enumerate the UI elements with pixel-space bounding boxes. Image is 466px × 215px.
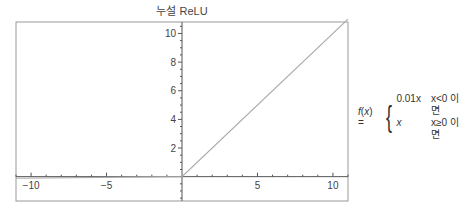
case1-cond: x<0 이면 xyxy=(431,93,466,117)
x-tick-label: 5 xyxy=(255,180,261,191)
brace-icon: { xyxy=(386,102,392,132)
formula-annotation: f(x) = { 0.01x x<0 이면 x x≥0 이면 xyxy=(358,93,466,141)
case2-expr: x xyxy=(396,117,420,141)
formula-lhs: f(x) = xyxy=(358,106,380,128)
x-tick-label: −5 xyxy=(101,180,113,191)
case1-expr: 0.01x xyxy=(396,93,420,117)
y-tick-label: 6 xyxy=(170,85,176,96)
y-tick-label: 10 xyxy=(165,28,177,39)
x-tick-label: −10 xyxy=(23,180,40,191)
x-tick-label: 10 xyxy=(327,180,339,191)
case2-cond: x≥0 이면 xyxy=(431,117,466,141)
y-tick-label: 4 xyxy=(170,114,176,125)
y-tick-label: 2 xyxy=(170,143,176,154)
formula-cases: 0.01x x<0 이면 x x≥0 이면 xyxy=(396,93,466,141)
y-tick-label: 8 xyxy=(170,57,176,68)
